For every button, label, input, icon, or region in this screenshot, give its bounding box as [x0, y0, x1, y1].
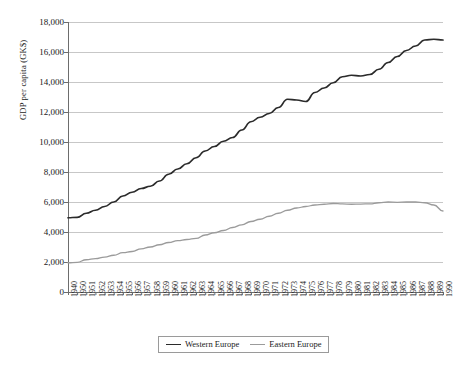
x-tick-label: 1972: [282, 281, 290, 297]
gdp-per-capita-line-chart: GDP per capita (GK$) 02,0004,0006,0008,0…: [0, 0, 465, 366]
legend-line-swatch-icon: [250, 344, 265, 345]
x-tick-label: 1951: [89, 281, 97, 297]
x-tick-label: 1989: [437, 281, 445, 297]
x-tick-label: 1985: [400, 281, 408, 297]
x-tick-label: 1980: [355, 281, 363, 297]
x-tick-label: 1960: [172, 281, 180, 297]
x-tick-label: 1978: [336, 281, 344, 297]
x-tick-label: 1990: [446, 281, 454, 297]
x-tick-label: 1967: [236, 281, 244, 297]
x-tick-label: 1988: [428, 281, 436, 297]
x-tick-label: 1983: [382, 281, 390, 297]
x-tick-label: 1965: [218, 281, 226, 297]
x-tick-label: 1987: [419, 281, 427, 297]
x-tick-label: 1940: [71, 281, 79, 297]
x-tick-label: 1953: [108, 281, 116, 297]
legend-line-swatch-icon: [166, 344, 181, 345]
legend-label: Eastern Europe: [269, 339, 321, 349]
x-tick-label: 1964: [208, 281, 216, 297]
x-tick-label: 1968: [245, 281, 253, 297]
x-tick-label: 1981: [364, 281, 372, 297]
legend-entry-eastern-europe[interactable]: Eastern Europe: [250, 339, 321, 349]
legend-entry-western-europe[interactable]: Western Europe: [166, 339, 239, 349]
x-tick-label: 1957: [144, 281, 152, 297]
x-tick-label: 1962: [190, 281, 198, 297]
x-tick-label: 1954: [117, 281, 125, 297]
x-tick-label: 1973: [291, 281, 299, 297]
legend-label: Western Europe: [185, 339, 239, 349]
x-tick-label: 1971: [272, 281, 280, 297]
x-tick-label: 1969: [254, 281, 262, 297]
x-axis-tick-labels: 1940195019511952195319541955195619571958…: [0, 0, 465, 366]
chart-legend: Western EuropeEastern Europe: [158, 336, 329, 353]
x-tick-label: 1986: [410, 281, 418, 297]
x-tick-label: 1976: [318, 281, 326, 297]
x-tick-label: 1955: [126, 281, 134, 297]
x-tick-label: 1982: [373, 281, 381, 297]
x-tick-label: 1966: [227, 281, 235, 297]
x-tick-label: 1975: [309, 281, 317, 297]
x-tick-label: 1952: [99, 281, 107, 297]
x-tick-label: 1958: [154, 281, 162, 297]
x-tick-label: 1974: [300, 281, 308, 297]
x-tick-label: 1961: [181, 281, 189, 297]
x-tick-label: 1959: [163, 281, 171, 297]
x-tick-label: 1979: [346, 281, 354, 297]
